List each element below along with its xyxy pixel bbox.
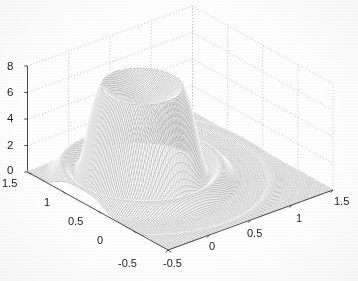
x-tick-label-0: 0 xyxy=(209,241,215,252)
figure-canvas: 8 6 4 2 0 1.5 1 0.5 0 -0.5 -0.5 0 0.5 1 … xyxy=(0,0,358,281)
y-tick-label-0: 0 xyxy=(97,235,103,246)
z-tick-label-0: 0 xyxy=(7,165,13,177)
y-tick-label--0-5: -0.5 xyxy=(118,258,137,269)
y-tick-label-0-5: 0.5 xyxy=(68,216,83,227)
z-tick-label-6: 6 xyxy=(7,87,13,99)
y-tick-label-1-5: 1.5 xyxy=(2,178,17,189)
x-tick-label--0-5: -0.5 xyxy=(163,258,182,269)
x-tick-label-0-5: 0.5 xyxy=(247,228,262,239)
x-tick-label-1: 1 xyxy=(296,213,302,224)
x-tick-label-1-5: 1.5 xyxy=(334,196,349,207)
y-tick-label-1: 1 xyxy=(44,197,50,208)
z-tick-label-4: 4 xyxy=(7,113,13,125)
z-tick-label-2: 2 xyxy=(7,140,13,152)
plot-3d-surface xyxy=(0,0,358,281)
z-tick-label-8: 8 xyxy=(7,61,13,73)
